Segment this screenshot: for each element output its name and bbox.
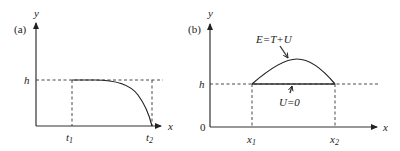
panel-a: (a) y x h t1 t2 [14, 7, 173, 145]
panel-b-x-axis-label: x [382, 121, 388, 133]
panel-b-potential-arrow [290, 86, 292, 93]
panel-b-energy-curve [252, 59, 335, 84]
panel-a-t2-label: t2 [146, 131, 153, 145]
panel-b-energy-annotation: E=T+U [255, 33, 293, 45]
panel-b-y-axis-label: y [207, 7, 213, 19]
panel-b-energy-arrow [280, 46, 288, 58]
panel-b-label: (b) [188, 23, 201, 36]
panel-a-curve [72, 80, 152, 126]
panel-a-label: (a) [14, 23, 27, 36]
panel-a-h-label: h [24, 74, 30, 86]
panel-b-x2-label: x2 [329, 133, 339, 147]
panel-a-x-axis-label: x [167, 120, 173, 132]
panel-b-potential-annotation: U=0 [279, 96, 300, 108]
panel-a-y-axis-label: y [33, 7, 39, 19]
panel-a-t1-label: t1 [66, 131, 73, 145]
panel-b-origin-label: 0 [200, 121, 206, 133]
figure: (a) y x h t1 t2 (b) y x 0 h E=T+U U=0 x1… [0, 0, 400, 151]
panel-b-h-label: h [199, 78, 205, 90]
panel-b: (b) y x 0 h E=T+U U=0 x1 x2 [188, 7, 388, 147]
panel-b-x1-label: x1 [246, 133, 256, 147]
